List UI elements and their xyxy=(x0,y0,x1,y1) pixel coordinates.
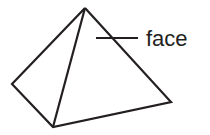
pyramid-figure: face xyxy=(0,0,210,135)
face-label: face xyxy=(146,26,188,51)
pyramid-diagram: face xyxy=(0,0,210,135)
